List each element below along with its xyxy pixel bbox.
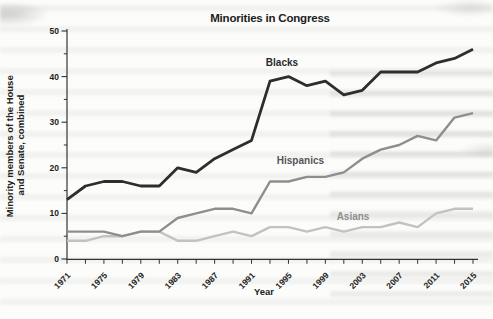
plot-area: 0102030405019711975197919831987199119951… <box>50 26 479 291</box>
y-tick-label: 40 <box>50 72 60 82</box>
x-tick-label: 1983 <box>163 270 184 291</box>
series-line-blacks <box>67 49 473 200</box>
chart-title: Minorities in Congress <box>210 12 330 24</box>
x-tick-label: 1979 <box>126 270 147 291</box>
x-tick-label: 1987 <box>200 270 221 291</box>
x-axis-label: Year <box>254 286 274 297</box>
x-tick-label: 1971 <box>52 270 73 291</box>
series-line-hispanics <box>67 113 473 236</box>
series-label-blacks: Blacks <box>266 57 299 68</box>
series-label-hispanics: Hispanics <box>277 155 325 166</box>
series-label-asians: Asians <box>337 211 370 222</box>
x-tick-label: 2011 <box>421 270 441 290</box>
y-tick-label: 30 <box>50 117 60 127</box>
x-tick-label: 2003 <box>347 270 368 291</box>
y-tick-label: 50 <box>50 26 60 36</box>
x-tick-label: 1975 <box>89 270 110 291</box>
congress-minorities-chart: Minorities in Congress Minority members … <box>0 0 493 319</box>
x-tick-label: 1995 <box>273 270 294 291</box>
y-tick-label: 0 <box>54 254 59 264</box>
y-tick-label: 10 <box>50 208 60 218</box>
x-tick-label: 2007 <box>384 270 405 291</box>
y-axis-label: Minority members of the House and Senate… <box>4 73 26 218</box>
x-tick-label: 2015 <box>458 270 479 291</box>
x-tick-label: 1999 <box>310 270 331 291</box>
y-tick-label: 20 <box>50 163 60 173</box>
